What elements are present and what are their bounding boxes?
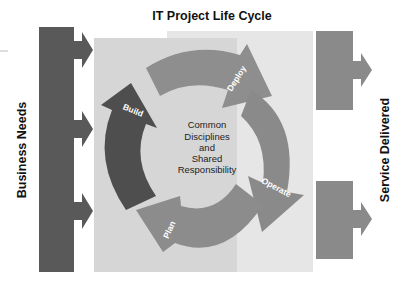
output-arrow-1: [353, 53, 372, 87]
svg-text:Common: Common: [188, 119, 227, 130]
service-delivered-label: Service Delivered: [378, 98, 392, 202]
svg-text:Shared: Shared: [192, 153, 223, 164]
business-needs-label: Business Needs: [15, 102, 29, 199]
svg-text:Responsibility: Responsibility: [178, 164, 237, 175]
svg-text:and: and: [199, 142, 215, 153]
input-arrow-2: [74, 111, 93, 147]
diagram-title: IT Project Life Cycle: [152, 9, 272, 23]
business-needs-bar: [39, 27, 93, 272]
input-arrow-3: [74, 193, 93, 229]
input-arrow-1: [74, 32, 93, 68]
svg-text:Disciplines: Disciplines: [184, 131, 230, 142]
it-lifecycle-diagram: IT Project Life Cycle Business Needs Ser…: [0, 0, 404, 282]
output-arrow-2: [353, 202, 372, 236]
service-delivered-boxes: [316, 31, 372, 259]
